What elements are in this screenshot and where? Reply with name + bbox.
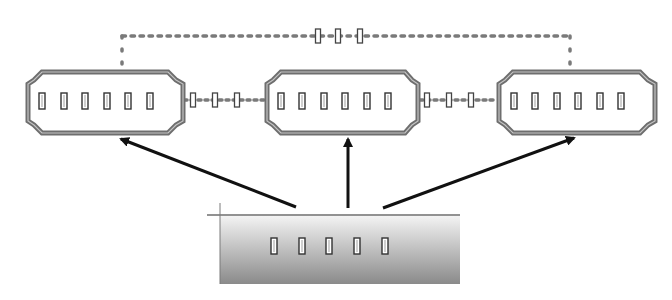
link-marker-icon xyxy=(447,93,452,107)
link-marker-icon xyxy=(336,29,341,43)
arrow-to-left xyxy=(121,139,296,207)
arrows xyxy=(121,138,574,208)
link-marker-icon xyxy=(213,93,218,107)
arrow-to-right xyxy=(383,138,574,208)
link-marker-icon xyxy=(235,93,240,107)
link-center-right xyxy=(420,93,497,107)
link-left-center xyxy=(184,93,264,107)
block-left[interactable] xyxy=(28,72,183,133)
link-marker-icon xyxy=(425,93,430,107)
link-marker-icon xyxy=(469,93,474,107)
link-marker-icon xyxy=(316,29,321,43)
base-block[interactable] xyxy=(207,203,460,284)
block-right[interactable] xyxy=(499,72,655,133)
block-center[interactable] xyxy=(267,72,418,133)
link-marker-icon xyxy=(358,29,363,43)
link-marker-icon xyxy=(191,93,196,107)
diagram-canvas xyxy=(0,0,672,300)
top-bus-link xyxy=(122,29,570,68)
